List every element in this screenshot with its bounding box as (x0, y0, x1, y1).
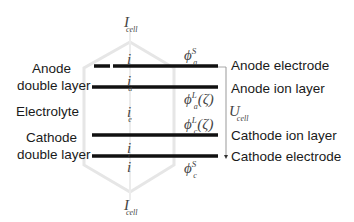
i-subscript: e (128, 115, 132, 124)
phi-subscript: a (194, 102, 198, 111)
i-symbol: i (127, 51, 131, 67)
electrolyte-label: Electrolyte (16, 105, 79, 119)
phi-superscript: S (192, 46, 197, 56)
current-subscript: cell (126, 208, 138, 217)
phi-symbol: ϕ (184, 160, 192, 176)
potential-phi-c-l: ϕLc(ζ) (184, 116, 213, 132)
cathode-double-layer-label-line1: Cathode (26, 131, 77, 145)
anode-electrode-label: Anode electrode (231, 59, 329, 73)
cathode-ion-layer-label: Cathode ion layer (231, 129, 337, 143)
i-subscript: a (128, 84, 132, 93)
phi-superscript: S (192, 159, 197, 169)
top-cell-current: Icell (124, 14, 141, 30)
potential-phi-a-s: ϕSa (184, 47, 200, 63)
phi-subscript: c (193, 171, 197, 180)
current-i-c: ic (127, 140, 135, 156)
phi-argument: (ζ) (198, 91, 214, 107)
phi-subscript: c (194, 127, 198, 136)
potential-phi-c-s: ϕSc (184, 160, 200, 176)
anode-ion-layer-label: Anode ion layer (231, 82, 325, 96)
current-i-e: ie (127, 104, 135, 120)
phi-argument: (ζ) (197, 116, 213, 132)
current-i-bottom: i (127, 159, 131, 175)
current-subscript: cell (126, 25, 138, 34)
phi-subscript: a (193, 58, 197, 67)
phi-symbol: ϕ (184, 91, 192, 107)
cathode-electrode-label: Cathode electrode (231, 150, 341, 164)
phi-symbol: ϕ (184, 47, 192, 63)
current-i-top: i (127, 51, 131, 67)
cell-voltage-label: Ucell (229, 103, 251, 119)
current-i-a: ia (127, 73, 135, 89)
anode-double-layer-label-line2: double layer (17, 79, 91, 93)
phi-symbol: ϕ (184, 116, 192, 132)
ucell-arrowhead (224, 155, 228, 159)
potential-phi-a-l: ϕLa(ζ) (184, 91, 214, 107)
cathode-double-layer-label-line2: double layer (17, 148, 91, 162)
phi-superscript: L (192, 90, 197, 100)
voltage-subscript: cell (237, 114, 249, 123)
anode-double-layer-label-line1: Anode (32, 62, 71, 76)
i-symbol: i (127, 159, 131, 175)
bottom-cell-current: Icell (124, 197, 141, 213)
